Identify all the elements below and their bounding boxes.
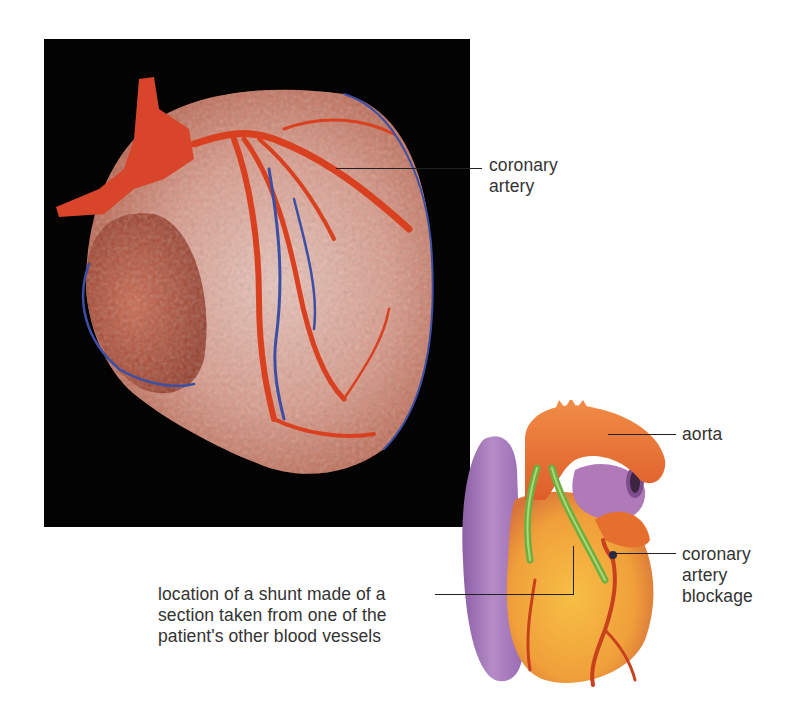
shunt-label-line3: patient's other blood vessels [158,626,387,647]
heart-cast-graphic [44,39,470,527]
blockage-label-line2: artery [682,565,753,586]
blockage-label: coronary artery blockage [682,544,753,607]
coronary-artery-label: coronary artery [489,155,558,197]
coronary-artery-label-line2: artery [489,176,558,197]
aorta-label: aorta [682,424,722,445]
coronary-artery-leader-line [336,168,482,169]
blockage-leader-line [610,553,676,554]
shunt-label-line1: location of a shunt made of a [158,584,387,605]
shunt-label-line2: section taken from one of the [158,605,387,626]
heart-illustration-graphic [455,400,685,690]
blockage-label-line3: blockage [682,586,753,607]
shunt-leader-line-horizontal [435,594,573,595]
blockage-label-line1: coronary [682,544,753,565]
shunt-leader-line-vertical [573,546,574,595]
heart-cast-photo [44,39,470,527]
coronary-artery-label-line1: coronary [489,155,558,176]
heart-bypass-illustration [455,400,685,690]
shunt-label: location of a shunt made of a section ta… [158,584,387,647]
aorta-leader-line [608,434,676,435]
